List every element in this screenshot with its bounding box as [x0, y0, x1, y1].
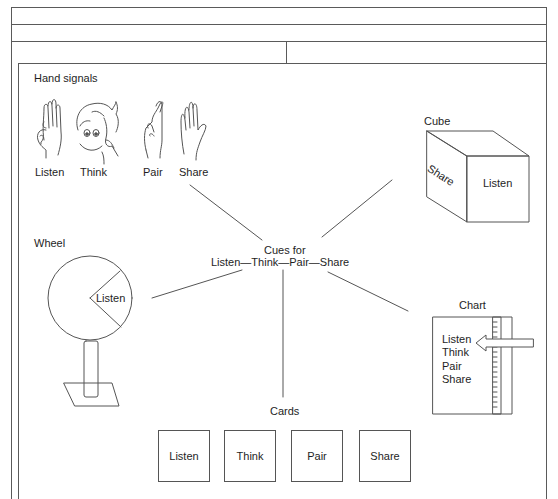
ruler-ticks: [493, 322, 497, 407]
wheel-drawing: [48, 256, 132, 406]
hand-signals-title: Hand signals: [34, 72, 98, 84]
center-title-line-2: Listen—Think—Pair—Share: [211, 256, 349, 268]
card-think: Think: [224, 430, 276, 482]
connector-wheel: [152, 270, 242, 298]
hand-signal-label-listen: Listen: [35, 166, 64, 178]
finger-at-temple-icon: [77, 102, 119, 164]
card-label: Think: [237, 450, 264, 462]
chart-item-pair: Pair: [442, 360, 462, 372]
hand-signal-label-think: Think: [80, 166, 107, 178]
wheel-title: Wheel: [34, 237, 65, 249]
hand-signal-label-share: Share: [179, 166, 208, 178]
cube-title: Cube: [424, 115, 450, 127]
connector-hand-signals: [190, 185, 262, 240]
chart-item-listen: Listen: [442, 333, 471, 345]
hand-at-ear-icon: [37, 100, 61, 159]
card-share: Share: [359, 430, 411, 482]
center-title-line-1: Cues for: [264, 244, 306, 256]
card-listen: Listen: [158, 430, 210, 482]
card-pair: Pair: [291, 430, 343, 482]
cube-front-face-label: Listen: [483, 177, 512, 189]
chart-title: Chart: [459, 299, 486, 311]
card-label: Pair: [307, 450, 327, 462]
connector-chart: [328, 272, 408, 311]
crossed-fingers-icon: [145, 102, 163, 159]
card-label: Share: [370, 450, 399, 462]
card-label: Listen: [169, 450, 198, 462]
chart-item-share: Share: [442, 373, 471, 385]
chart-item-think: Think: [442, 346, 469, 358]
hand-signal-label-pair: Pair: [143, 166, 163, 178]
cards-title: Cards: [270, 405, 299, 417]
wheel-slice-label: Listen: [96, 292, 125, 304]
connector-cube: [322, 180, 392, 237]
arrow-icon: [476, 335, 533, 351]
open-hand-icon: [181, 102, 206, 160]
